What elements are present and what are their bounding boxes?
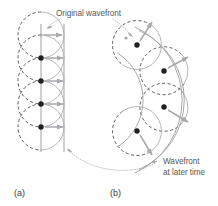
leader-arrowhead-c (67, 149, 72, 152)
huygens-principle-diagram: Original wavefront Wavefront at later ti… (0, 0, 218, 206)
wavelet-dashed-b1 (113, 21, 152, 65)
source-point-a3 (38, 78, 43, 83)
panel-label-b: (b) (110, 188, 121, 198)
label-wavefront-later-line1: Wavefront (163, 157, 200, 166)
source-point-b1 (134, 42, 139, 47)
panel-a-rays (44, 35, 63, 127)
panel-b-group (113, 21, 188, 174)
ray-arrow-b3 (168, 110, 188, 122)
panel-a-group (18, 12, 64, 152)
source-point-b4 (134, 128, 139, 133)
label-wavefront-later-line2: at later time (163, 168, 206, 177)
source-point-b2 (161, 68, 166, 73)
source-point-a1 (40, 34, 43, 37)
ray-arrow-b4 (140, 135, 152, 155)
label-original-wavefront: Original wavefront (56, 9, 122, 18)
leader-arrowhead-b (128, 33, 133, 37)
panel-b-wavelets-dashed (113, 21, 184, 156)
panel-b-rays (140, 22, 188, 155)
figure-root: Original wavefront Wavefront at later ti… (0, 0, 218, 206)
source-point-a5 (38, 124, 43, 129)
source-point-b-marker (124, 36, 127, 39)
source-point-a2 (38, 55, 43, 60)
panel-b-later-wavefront-arc-inner (139, 31, 184, 170)
source-point-a4 (38, 101, 43, 106)
panel-label-a: (a) (14, 188, 25, 198)
panel-b-original-wavefront-arc (118, 53, 144, 147)
wavelet-dashed-a1 (18, 12, 41, 58)
leader-original-wavefront-left (47, 19, 60, 28)
panel-a-wavelets-dashed (18, 12, 41, 150)
source-point-b3 (161, 104, 166, 109)
panel-b-later-wavefront-arc-outer (135, 27, 182, 173)
